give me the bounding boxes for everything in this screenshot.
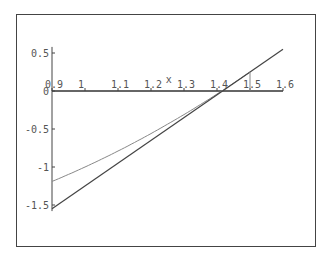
y-tick-label: -0.5 xyxy=(25,124,49,135)
x-tick-label: 1.1 xyxy=(111,79,129,90)
y-tick-label: -1 xyxy=(37,162,49,173)
y-tick-label: -1.5 xyxy=(25,200,49,211)
x-tick-label: 1.5 xyxy=(243,79,261,90)
x-axis-label: x xyxy=(166,74,172,85)
y-tick-label: 0 xyxy=(43,86,49,97)
x-tick-label: 1.2 xyxy=(144,79,162,90)
x-tick-label: 1 xyxy=(78,79,84,90)
x-tick-label: 1.6 xyxy=(276,79,294,90)
plot-area: 0.911.11.21.31.41.51.60.50-0.5-1-1.5x xyxy=(0,0,330,259)
x-tick-label: 1.3 xyxy=(177,79,195,90)
y-tick-label: 0.5 xyxy=(31,48,49,59)
